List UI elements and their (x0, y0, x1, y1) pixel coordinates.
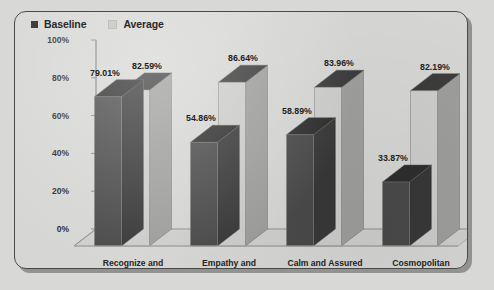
legend-label-baseline: Baseline (44, 18, 86, 30)
legend-swatch-baseline (31, 21, 38, 28)
bar-baseline-2-side (314, 118, 336, 246)
value-label-baseline-3: 33.87% (378, 153, 408, 163)
chart-frame: Baseline Average 0%20%40%60%80%100% 82.1… (14, 11, 468, 269)
category-label-3: Cosmopolitan (392, 258, 449, 269)
bar-average-0-side (150, 73, 172, 246)
bar-baseline-0-side (122, 80, 144, 246)
bar-average-2-side (342, 70, 364, 246)
value-label-average-1: 86.64% (228, 53, 258, 63)
bar-baseline-2-front[interactable] (287, 135, 314, 246)
category-label-0: Recognize and Respect (103, 258, 164, 269)
value-label-baseline-0: 79.01% (90, 68, 120, 78)
bar-chart-svg (15, 12, 468, 269)
bar-baseline-3-front[interactable] (383, 182, 410, 246)
bar-baseline-0-front[interactable] (95, 97, 122, 246)
value-label-baseline-1: 54.86% (186, 113, 216, 123)
value-label-average-0: 82.59% (132, 61, 162, 71)
bar-baseline-1-side (218, 125, 240, 246)
bar-baseline-1-front[interactable] (191, 142, 218, 246)
category-label-1: Empathy and Warmth (202, 258, 256, 269)
value-label-average-3: 82.19% (420, 62, 450, 72)
bar-average-1-side (246, 65, 268, 246)
value-label-average-2: 83.96% (324, 58, 354, 68)
legend-item-average[interactable]: Average (108, 18, 163, 30)
category-label-2: Calm and Assured (287, 258, 362, 269)
chart-legend: Baseline Average (31, 18, 164, 30)
legend-label-average: Average (123, 18, 163, 30)
legend-item-baseline[interactable]: Baseline (31, 18, 86, 30)
value-label-baseline-2: 58.89% (282, 106, 312, 116)
legend-swatch-average (108, 20, 117, 29)
bar-average-3-side (438, 74, 460, 246)
plot-area: 82.19%33.87%Cosmopolitan83.96%58.89%Calm… (15, 12, 468, 269)
